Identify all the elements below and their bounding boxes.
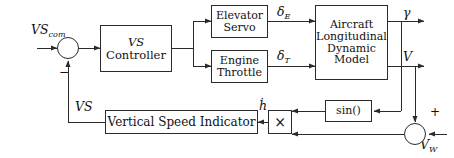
- block-vs-controller[interactable]: VS Controller: [100, 25, 172, 72]
- sin-block-label: sin(): [336, 105, 361, 117]
- summing-positive-sign: +: [430, 106, 440, 118]
- block-vertical-speed-indicator[interactable]: Vertical Speed Indicator: [105, 110, 258, 134]
- block-engine-throttle[interactable]: Engine Throttle: [211, 50, 268, 83]
- vs-controller-line1: VS: [128, 36, 144, 48]
- block-aircraft-longitudinal-dynamic-model[interactable]: Aircraft Longitudinal Dynamic Model: [315, 5, 388, 80]
- block-sin[interactable]: sin(): [325, 100, 372, 122]
- multiplier-symbol: ×: [274, 114, 286, 130]
- vertical-speed-indicator-label: Vertical Speed Indicator: [108, 116, 256, 129]
- summing-junction-airspeed: [404, 123, 426, 145]
- summing-negative-sign: −: [59, 66, 69, 78]
- elevator-servo-line1: Elevator: [216, 10, 263, 22]
- elevator-servo-line2: Servo: [223, 22, 255, 34]
- signal-label-gamma: γ: [403, 7, 410, 20]
- block-elevator-servo[interactable]: Elevator Servo: [211, 5, 268, 38]
- signal-label-delta-throttle: δT: [277, 50, 290, 63]
- aircraft-model-line2: Longitudinal: [316, 31, 387, 43]
- block-multiplier[interactable]: ×: [268, 110, 292, 134]
- signal-label-delta-elevator: δE: [277, 6, 290, 19]
- signal-label-velocity: V: [403, 51, 412, 64]
- engine-throttle-line1: Engine: [220, 55, 259, 67]
- signal-label-h-dot: ḣ: [259, 100, 267, 113]
- summing-junction-error: [57, 37, 79, 59]
- vs-controller-line2: Controller: [106, 49, 166, 61]
- engine-throttle-line2: Throttle: [217, 67, 262, 79]
- signal-label-vs-feedback: VS: [75, 101, 93, 114]
- aircraft-model-line4: Model: [334, 54, 369, 66]
- signal-label-vs-command: VScom: [31, 24, 65, 37]
- block-diagram-canvas: VScom − VS δE δT γ V ḣ + VW VS Controll…: [0, 0, 454, 158]
